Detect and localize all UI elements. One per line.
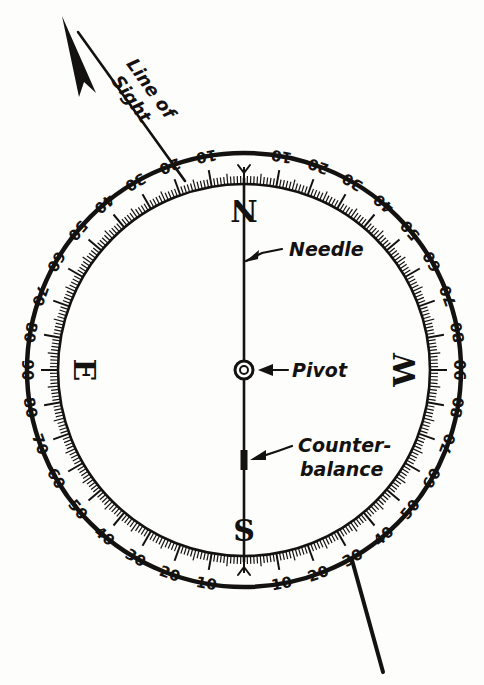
graduation-tick [411,452,418,456]
graduation-tick [181,187,184,195]
dial-number: 10 [270,146,294,167]
graduation-tick [356,519,361,525]
graduation-tick [400,471,407,475]
graduation-tick [295,184,297,192]
graduation-tick [427,333,435,335]
dial-number: 30 [122,169,149,195]
graduation-tick [48,353,59,354]
graduation-tick [55,412,63,414]
graduation-tick [345,526,349,533]
graduation-tick [270,554,271,562]
graduation-tick [89,482,95,487]
graduation-tick [429,353,440,354]
graduation-tick [402,267,409,271]
graduation-tick [156,536,160,543]
graduation-tick [415,443,422,446]
dial-number: 60 [419,248,445,275]
graduation-tick [209,170,212,187]
graduation-tick [410,454,417,458]
graduation-tick [263,555,264,563]
graduation-tick [83,474,90,478]
graduation-tick [141,528,145,535]
graduation-tick [60,427,68,429]
dial-number: 80 [447,320,468,344]
counterbalance-callout: Counter- balance [250,434,391,480]
graduation-tick [320,540,323,547]
graduation-tick [193,180,196,191]
graduation-tick [414,291,421,294]
graduation-tick [424,319,435,322]
graduation-tick [83,262,90,266]
cardinal-letter-e: E [67,359,102,382]
graduation-tick [422,313,430,315]
graduation-tick [207,553,209,561]
graduation-tick [289,182,291,190]
graduation-tick [159,196,163,203]
graduation-tick [289,550,291,558]
graduation-tick [191,549,193,557]
graduation-tick [51,389,59,390]
dial-number: 60 [419,465,445,492]
graduation-tick [416,297,423,300]
graduation-tick [343,205,347,212]
graduation-tick [87,256,93,261]
graduation-tick [81,471,88,475]
graduation-tick [331,534,335,541]
graduation-tick [63,437,70,440]
graduation-tick [68,463,83,472]
graduation-tick [283,552,285,560]
graduation-tick [52,343,60,344]
dial-number: 10 [270,573,294,594]
graduation-tick [153,534,157,541]
graduation-tick [227,555,228,566]
graduation-tick [421,427,429,429]
graduation-tick [65,294,72,297]
graduation-tick [394,256,400,261]
graduation-tick [427,402,444,405]
graduation-tick [276,553,279,570]
graduation-tick [52,396,60,397]
graduation-tick [127,519,132,525]
graduation-tick [50,356,58,357]
graduation-tick [426,330,434,332]
graduation-tick [348,524,352,531]
graduation-tick [217,554,218,562]
line-of-sight-arrowhead [62,16,96,97]
graduation-tick [320,193,323,200]
graduation-tick [429,386,440,387]
graduation-tick [311,189,314,196]
graduation-tick [191,184,193,192]
graduation-tick [400,264,407,268]
graduation-tick [204,552,206,560]
graduation-tick [430,383,438,384]
graduation-tick [89,253,95,258]
graduation-tick [422,424,430,426]
graduation-tick [70,452,77,456]
graduation-tick [214,178,215,186]
graduation-tick [61,431,69,434]
graduation-tick [67,291,74,294]
graduation-tick [54,418,65,421]
graduation-tick [156,197,160,204]
graduation-tick [425,412,433,414]
graduation-tick [54,409,62,411]
dial-number: 20 [157,562,183,586]
graduation-tick [73,457,80,461]
graduation-tick [181,546,184,554]
graduation-tick [286,551,288,559]
graduation-tick [136,209,140,216]
graduation-tick [276,170,279,187]
graduation-tick [159,537,163,544]
graduation-tick [328,197,332,204]
graduation-tick [44,402,61,405]
graduation-tick [283,180,285,188]
graduation-tick [420,307,428,310]
dial-number: 90 [18,360,36,381]
counterbalance-arrowhead [250,450,266,460]
graduation-tick [353,213,358,219]
graduation-tick [52,399,60,400]
graduation-tick [394,479,400,484]
graduation-tick [408,457,415,461]
graduation-tick [193,550,196,561]
graduation-tick [127,215,132,221]
